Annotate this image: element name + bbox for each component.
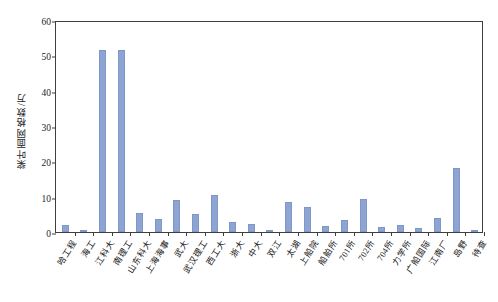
bar-slot	[56, 22, 75, 232]
y-tick-label: 10	[11, 194, 56, 204]
bar[interactable]	[453, 168, 460, 232]
bar[interactable]	[341, 220, 348, 232]
x-tick-mark	[354, 232, 355, 236]
x-tick-mark	[298, 232, 299, 236]
bar-slot	[428, 22, 447, 232]
bar[interactable]	[285, 202, 292, 232]
bar-slot	[317, 22, 336, 232]
y-tick-label: 30	[11, 123, 56, 133]
bar-slot	[186, 22, 205, 232]
bar[interactable]	[322, 226, 329, 232]
bar-slot	[112, 22, 131, 232]
x-tick-mark	[112, 232, 113, 236]
bar-slot	[205, 22, 224, 232]
x-tick-mark	[428, 232, 429, 236]
x-tick-mark	[205, 232, 206, 236]
bar-slot	[242, 22, 261, 232]
x-tick-mark	[93, 232, 94, 236]
bar[interactable]	[248, 224, 255, 232]
x-tick-mark	[261, 232, 262, 236]
x-tick-mark	[335, 232, 336, 236]
bar[interactable]	[304, 207, 311, 232]
x-tick-mark	[130, 232, 131, 236]
bar-slot	[223, 22, 242, 232]
chart-title-faint-strip	[200, 0, 320, 7]
x-tick-mark	[484, 232, 485, 236]
x-tick-label: 702所	[354, 237, 376, 262]
x-tick-mark	[317, 232, 318, 236]
bar[interactable]	[155, 219, 162, 232]
x-tick-mark	[75, 232, 76, 236]
x-tick-mark	[465, 232, 466, 236]
bar-slot	[149, 22, 168, 232]
bar[interactable]	[471, 230, 478, 232]
bar[interactable]	[136, 213, 143, 232]
bar-slot	[465, 22, 484, 232]
bar[interactable]	[415, 228, 422, 232]
x-tick-label: 岛野	[449, 237, 469, 259]
x-tick-mark	[372, 232, 373, 236]
x-tick-label: 双江	[263, 237, 283, 259]
bar-slot	[391, 22, 410, 232]
y-tick-label: 50	[11, 52, 56, 62]
x-axis-labels: 哈工程海工江科大南理工山东科大上海海事武大武汉理工西工大浙大中大双江太湖上船院船…	[55, 237, 483, 302]
x-tick-label: 待查	[468, 237, 488, 259]
bar-slot	[261, 22, 280, 232]
y-tick-label: 40	[11, 88, 56, 98]
bar[interactable]	[211, 195, 218, 232]
bar-slot	[75, 22, 94, 232]
bar-slot	[298, 22, 317, 232]
x-tick-mark	[223, 232, 224, 236]
x-tick-mark	[168, 232, 169, 236]
bar[interactable]	[360, 199, 367, 232]
bar[interactable]	[397, 225, 404, 232]
bar[interactable]	[434, 218, 441, 232]
plot-area: 0102030405060	[55, 21, 483, 233]
bar-slot	[372, 22, 391, 232]
bar-slot	[410, 22, 429, 232]
y-tick-label: 20	[11, 158, 56, 168]
bar[interactable]	[80, 230, 87, 232]
y-tick-label: 60	[11, 17, 56, 27]
x-tick-label: 哈工程	[54, 237, 79, 267]
x-tick-label: 中大	[245, 237, 265, 259]
bar[interactable]	[378, 227, 385, 232]
bar-slot	[354, 22, 373, 232]
x-tick-label: 701所	[335, 237, 357, 262]
bar[interactable]	[229, 222, 236, 232]
bars-layer	[56, 22, 482, 232]
x-tick-mark	[279, 232, 280, 236]
x-tick-mark	[149, 232, 150, 236]
y-tick-label: 0	[11, 229, 56, 239]
bar-slot	[279, 22, 298, 232]
bar[interactable]	[192, 214, 199, 232]
bar-chart: 桨叶面网格数/万 0102030405060 哈工程海工江科大南理工山东科大上海…	[0, 0, 498, 302]
x-tick-mark	[410, 232, 411, 236]
bar-slot	[130, 22, 149, 232]
bar-slot	[447, 22, 466, 232]
x-tick-mark	[391, 232, 392, 236]
x-tick-mark	[242, 232, 243, 236]
x-tick-mark	[186, 232, 187, 236]
bar[interactable]	[118, 50, 125, 232]
bar[interactable]	[173, 200, 180, 233]
bar[interactable]	[99, 50, 106, 232]
bar-slot	[335, 22, 354, 232]
bar[interactable]	[266, 230, 273, 232]
x-tick-label: 浙大	[226, 237, 246, 259]
x-tick-mark	[447, 232, 448, 236]
bar-slot	[93, 22, 112, 232]
bar-slot	[168, 22, 187, 232]
bar[interactable]	[62, 225, 69, 232]
y-tick-mark	[52, 234, 56, 235]
